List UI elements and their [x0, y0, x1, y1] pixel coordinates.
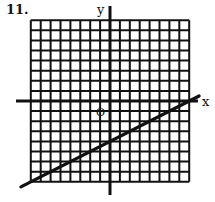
origin-label: O	[96, 106, 105, 119]
coordinate-plane: xyO	[0, 0, 215, 202]
y-axis-label: y	[96, 2, 105, 17]
x-axis-label: x	[202, 94, 210, 109]
